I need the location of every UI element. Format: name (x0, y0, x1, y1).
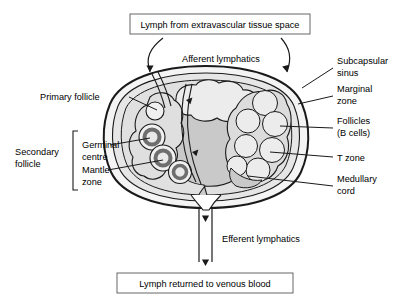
leader-subcapsular-sinus (302, 68, 333, 88)
follicles-label-line2: (B cells) (337, 128, 370, 138)
secondary-follicle-bracket (73, 131, 78, 190)
primary-follicle (146, 102, 164, 120)
marginal-zone-label-line1: Marginal (337, 84, 372, 94)
subcapsular-sinus-label-line2: sinus (337, 68, 359, 78)
afferent-arrow-left-head (146, 66, 153, 72)
germinal-centre-1 (145, 130, 160, 145)
right-follicle-3 (236, 109, 260, 133)
right-follicle-2 (263, 112, 288, 137)
lymph-node-diagram: Lymph from extravascular tissue space Ly… (0, 0, 405, 299)
medullary-cord-label-line2: cord (337, 186, 355, 196)
top-label-box: Lymph from extravascular tissue space (130, 14, 310, 34)
mantle-zone-label-line1: Mantle (82, 165, 110, 175)
primary-follicle-label: Primary follicle (40, 92, 100, 102)
top-label-box-text: Lymph from extravascular tissue space (141, 20, 300, 30)
secondary-follicle-label-line1: Secondary (15, 147, 59, 157)
germinal-centre-label-line1: Germinal (82, 140, 119, 150)
germinal-centre-label-line2: centre (82, 152, 108, 162)
medullary-cord-label-line1: Medullary (337, 174, 377, 184)
afferent-lymphatics-label: Afferent lymphatics (182, 54, 260, 64)
diagram-canvas: Lymph from extravascular tissue space Ly… (0, 0, 405, 299)
germinal-centre-3 (174, 166, 187, 179)
efferent-arrowhead-lower (202, 259, 209, 266)
follicles-label-line1: Follicles (337, 116, 371, 126)
efferent-arrowhead-upper (202, 215, 209, 222)
secondary-follicle-label-line2: follicle (15, 159, 41, 169)
efferent-lymphatic-vessel (199, 208, 212, 266)
efferent-lymphatics-label: Efferent lymphatics (222, 234, 300, 244)
right-follicle-5 (235, 135, 258, 158)
mantle-zone-label-line2: zone (82, 177, 102, 187)
tzone-label: T zone (337, 153, 365, 163)
germinal-centre-2 (156, 151, 171, 166)
bottom-label-box-text: Lymph returned to venous blood (139, 279, 270, 289)
lymph-node-body (104, 66, 309, 210)
bottom-label-box: Lymph returned to venous blood (117, 273, 293, 293)
marginal-zone-label-line2: zone (337, 96, 357, 106)
leader-marginal-zone (298, 96, 333, 104)
subcapsular-sinus-label-line1: Subcapsular (337, 56, 388, 66)
